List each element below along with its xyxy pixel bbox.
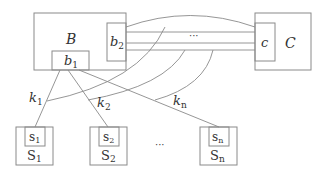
node-C-label: C	[285, 35, 296, 51]
node-b1: b1	[52, 51, 89, 70]
svg-text:Sn: Sn	[210, 148, 225, 164]
node-b1-label: b	[64, 53, 72, 68]
node-Sn-sub: n	[219, 154, 225, 164]
edge-kn-sub: n	[181, 100, 187, 110]
svg-text:b1: b1	[64, 53, 78, 70]
edge-k1-label: k	[29, 90, 37, 105]
edge-k2-sub: 2	[105, 102, 111, 112]
channels-ellipsis: ···	[189, 30, 199, 41]
node-Sn: sn Sn	[200, 127, 237, 165]
edge-kn: kn	[155, 50, 213, 110]
edges-b1-servers	[35, 70, 219, 127]
node-S1-sub: 1	[36, 154, 42, 164]
diagram-canvas: B b2 b1 C c ··· k1 k2	[0, 0, 325, 176]
node-c: c	[255, 23, 275, 61]
node-B-label: B	[65, 31, 76, 47]
edge-k2: k2	[88, 50, 185, 112]
node-c-label: c	[261, 35, 269, 50]
node-s1-sub: 1	[35, 136, 40, 145]
svg-text:k2: k2	[97, 95, 111, 112]
node-S2: s2 S2	[90, 127, 127, 165]
edge-k2-label: k	[97, 95, 105, 110]
channels-b2-c: ···	[126, 16, 255, 51]
svg-text:S2: S2	[101, 148, 116, 164]
svg-text:kn: kn	[173, 93, 187, 110]
svg-text:sn: sn	[212, 130, 223, 145]
edge-kn-label: k	[173, 93, 181, 108]
node-Sn-label: S	[210, 148, 219, 163]
svg-text:b2: b2	[110, 34, 124, 51]
svg-text:s2: s2	[103, 130, 114, 145]
node-S1: s1 S1	[16, 127, 53, 165]
node-b1-sub: 1	[72, 60, 78, 70]
node-S2-sub: 2	[110, 154, 116, 164]
node-b2-sub: 2	[118, 41, 124, 51]
svg-text:s1: s1	[29, 130, 40, 145]
svg-text:k1: k1	[29, 90, 43, 107]
node-s2-sub: 2	[109, 136, 114, 145]
node-b2-label: b	[110, 34, 118, 49]
node-b2: b2	[107, 23, 126, 61]
node-S1-label: S	[27, 148, 36, 163]
node-S2-label: S	[101, 148, 110, 163]
servers-ellipsis: ···	[155, 139, 165, 150]
node-sn-sub: n	[218, 136, 223, 145]
edge-k1-sub: 1	[37, 97, 43, 107]
svg-text:S1: S1	[27, 148, 42, 164]
